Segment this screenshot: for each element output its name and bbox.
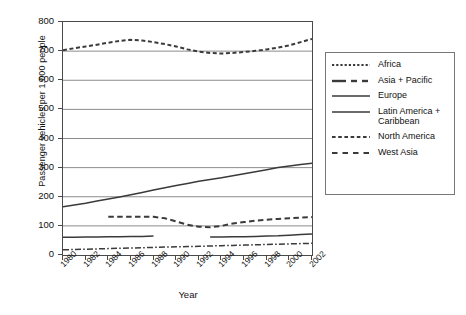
legend-item: West Asia <box>332 147 449 158</box>
chart-canvas <box>63 22 312 255</box>
y-tick-label: 700 <box>14 44 54 55</box>
legend-key-icon <box>332 75 374 86</box>
y-tick-label: 0 <box>14 248 54 259</box>
legend-key-icon <box>332 131 374 142</box>
series-line <box>210 234 312 237</box>
gridlines <box>63 51 312 226</box>
legend-label: Latin America + Caribbean <box>378 106 449 127</box>
data-series-group <box>63 39 312 250</box>
legend-item: Europe <box>332 90 449 101</box>
legend-item: Asia + Pacific <box>332 75 449 86</box>
chart-legend: AfricaAsia + PacificEuropeLatin America … <box>325 52 455 195</box>
plot-area <box>62 21 313 256</box>
y-tick-label: 500 <box>14 102 54 113</box>
y-tick-label: 400 <box>14 132 54 143</box>
legend-key-icon <box>332 147 374 158</box>
legend-item: Africa <box>332 59 449 70</box>
x-axis-title: Year <box>138 289 238 300</box>
y-tick-label: 300 <box>14 161 54 172</box>
series-line <box>63 163 312 206</box>
y-tick-label: 100 <box>14 219 54 230</box>
legend-label: West Asia <box>378 147 418 158</box>
legend-label: Asia + Pacific <box>378 75 432 86</box>
y-tick-label: 200 <box>14 190 54 201</box>
legend-item: Latin America + Caribbean <box>332 106 449 127</box>
chart-figure: Passenger vehicles per 1,000 people 8007… <box>0 0 466 315</box>
legend-label: Africa <box>378 59 401 70</box>
legend-item: North America <box>332 131 449 142</box>
legend-key-icon <box>332 59 374 70</box>
legend-label: North America <box>378 131 435 142</box>
legend-label: Europe <box>378 90 407 101</box>
y-tick-label: 800 <box>14 15 54 26</box>
legend-key-icon <box>332 90 374 101</box>
series-line <box>63 236 154 237</box>
y-tick-label: 600 <box>14 73 54 84</box>
legend-key-icon <box>332 106 374 117</box>
